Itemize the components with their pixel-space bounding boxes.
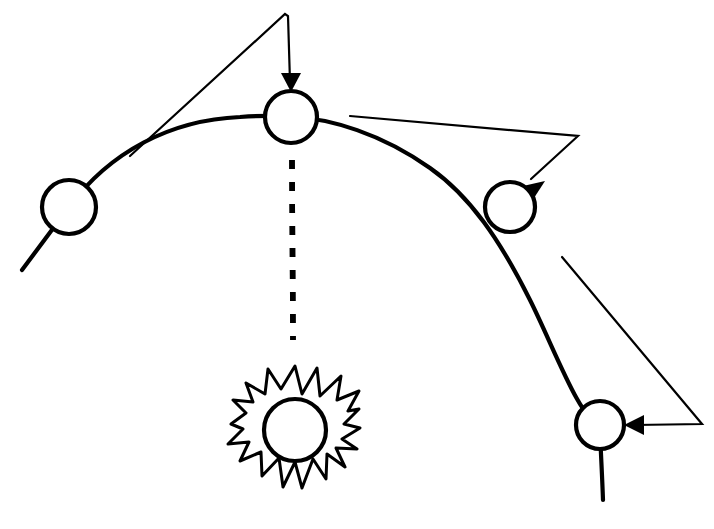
node-lower-right bbox=[576, 401, 624, 449]
starburst-inner-circle bbox=[264, 399, 326, 461]
pointer-arrow-1-line bbox=[130, 14, 290, 156]
diagram-svg bbox=[0, 0, 714, 529]
dashed-link-2 bbox=[292, 160, 293, 340]
arrow-head-icon-3 bbox=[624, 415, 644, 435]
diagram-canvas bbox=[0, 0, 714, 529]
pointer-arrow-3-line bbox=[562, 257, 702, 425]
pointer-arrow-2 bbox=[350, 116, 578, 198]
node-upper-left bbox=[42, 180, 96, 234]
node-right bbox=[485, 182, 535, 232]
dashed-link-group bbox=[292, 160, 293, 340]
node-apex bbox=[265, 91, 317, 143]
starburst-node bbox=[228, 366, 360, 488]
pointer-arrow-group bbox=[130, 14, 702, 435]
pointer-arrow-2-line bbox=[350, 116, 578, 179]
